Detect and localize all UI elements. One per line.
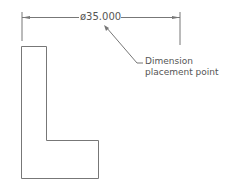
arrowhead-left — [22, 16, 30, 19]
drawing-canvas — [0, 0, 234, 189]
l-shape-outline — [22, 47, 99, 179]
callout-line-2: placement point — [145, 67, 219, 78]
arrowhead-right — [172, 16, 180, 19]
dimension-text: ø35.000 — [80, 11, 121, 22]
callout-line-1: Dimension — [145, 56, 193, 67]
leader-line — [106, 27, 143, 63]
